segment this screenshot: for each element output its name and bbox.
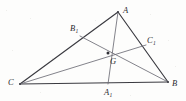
label-midpoint-B1: B1 — [70, 24, 78, 33]
median-lines — [20, 12, 168, 84]
geometry-diagram: A B C A1 B1 C1 G — [0, 0, 186, 101]
label-vertex-A-text: A — [123, 5, 128, 15]
label-midpoint-B1-subscript: 1 — [76, 28, 79, 34]
figure-canvas — [0, 0, 186, 101]
label-midpoint-A1-subscript: 1 — [110, 92, 113, 98]
side-CB-line — [20, 82, 168, 84]
vertex-markers — [19, 11, 169, 85]
side-AB-line — [118, 12, 168, 82]
label-vertex-B-text: B — [172, 78, 177, 88]
label-midpoint-C1: C1 — [147, 36, 155, 45]
triangle-sides — [20, 12, 168, 84]
label-midpoint-B1-text: B — [70, 23, 75, 33]
centroid-point-G — [107, 52, 110, 55]
label-midpoint-C1-text: C — [147, 35, 153, 45]
label-vertex-A: A — [123, 6, 128, 15]
vertex-point-A — [117, 11, 119, 13]
label-vertex-B: B — [172, 79, 177, 88]
label-centroid-G-text: G — [110, 56, 116, 66]
label-centroid-G: G — [110, 57, 116, 66]
centroid-marker — [107, 52, 110, 55]
median-C-to-C1-line — [20, 45, 146, 84]
label-midpoint-C1-subscript: 1 — [153, 40, 156, 46]
median-A-to-A1-line — [108, 12, 118, 84]
vertex-point-C — [19, 83, 21, 85]
label-midpoint-A1: A1 — [104, 88, 112, 97]
label-midpoint-A1-text: A — [104, 87, 109, 97]
label-vertex-C-text: C — [8, 77, 14, 87]
label-vertex-C: C — [8, 78, 14, 87]
vertex-point-B — [167, 81, 169, 83]
